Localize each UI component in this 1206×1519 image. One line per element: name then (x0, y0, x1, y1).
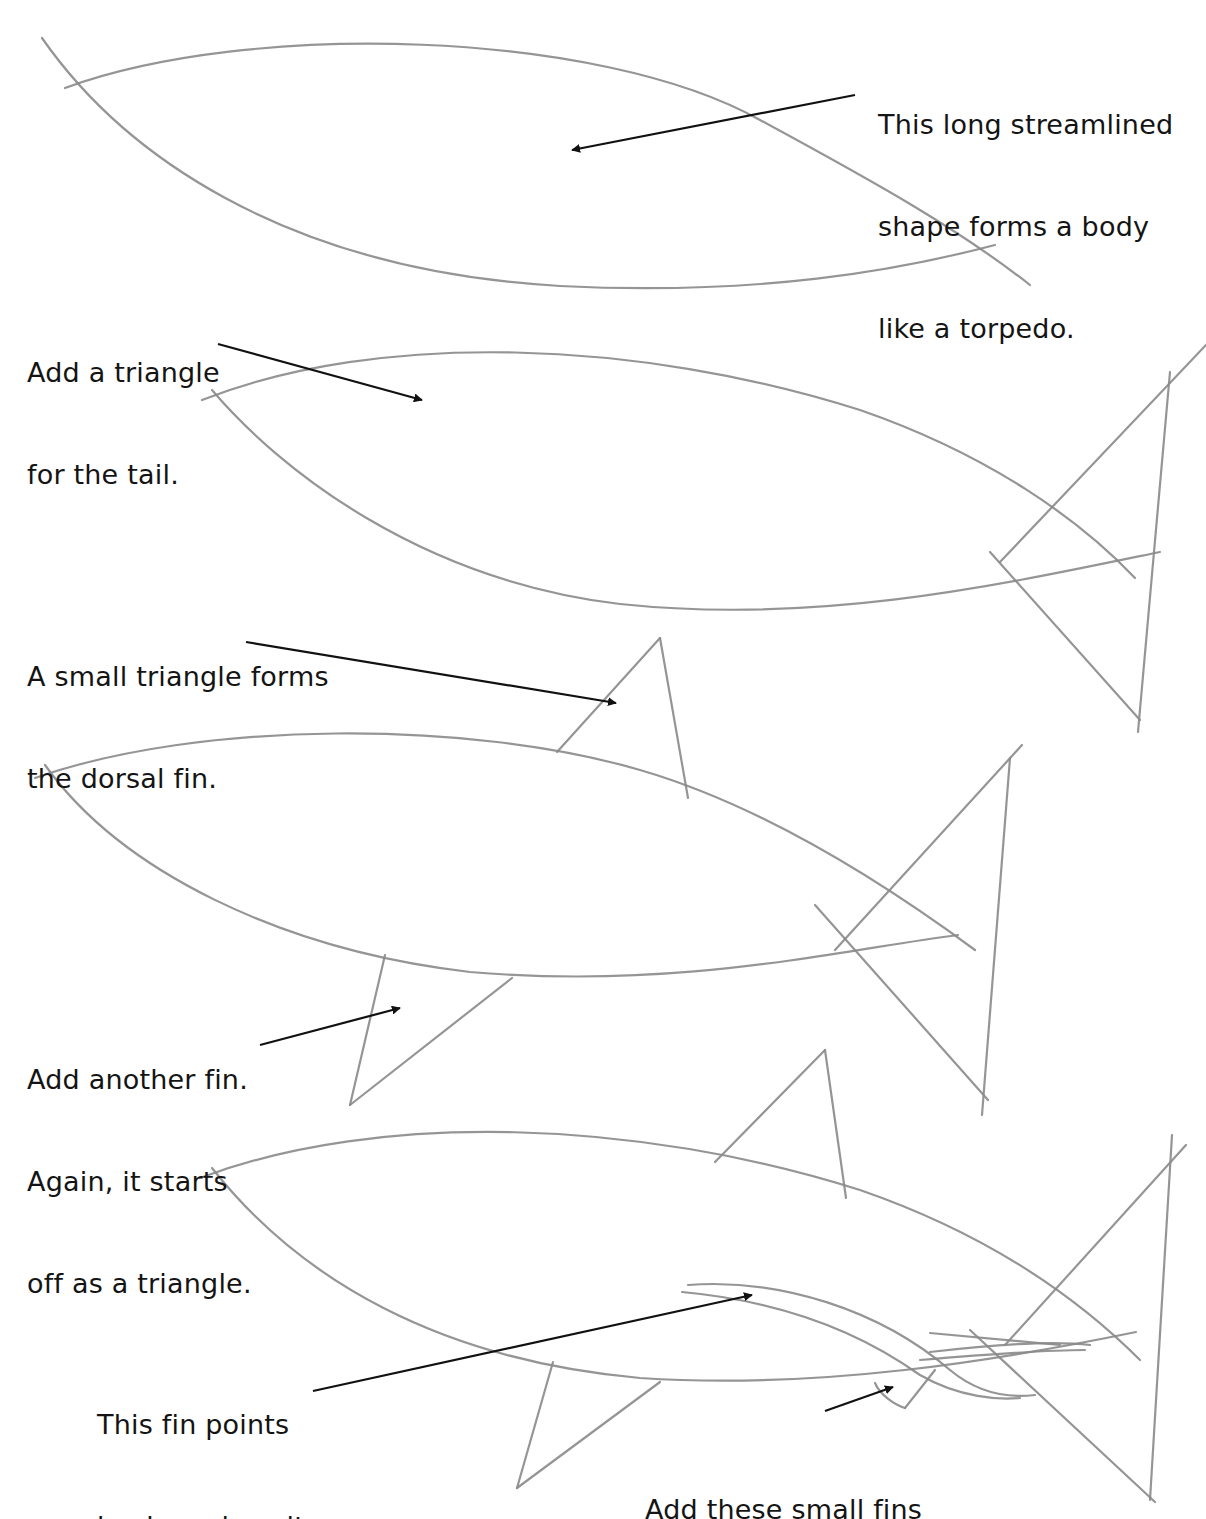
annotation-line: for the tail. (27, 458, 220, 492)
annotation-line: Add a triangle (27, 356, 220, 390)
annotation-pectoral-fin: This fin points backward, so it looks lo… (97, 1340, 305, 1519)
step-3-lower-fin (350, 955, 512, 1105)
step-4-arrow (260, 1008, 400, 1045)
annotation-body: This long streamlined shape forms a body… (878, 40, 1173, 380)
step-5-pectoral-arrow (313, 1295, 752, 1391)
annotation-line: Add another fin. (27, 1063, 252, 1097)
annotation-tail: Add a triangle for the tail. (27, 288, 220, 526)
annotation-line: like a torpedo. (878, 312, 1173, 346)
annotation-line: This fin points (97, 1408, 305, 1442)
step-5-lower-fin (517, 1362, 660, 1488)
annotation-line: A small triangle forms (27, 660, 329, 694)
step-2-arrow (218, 344, 422, 400)
step-3-tail-triangle (815, 745, 1022, 1115)
annotation-dorsal-fin: A small triangle forms the dorsal fin. (27, 592, 329, 830)
step-5-body-sketch (200, 1132, 1140, 1381)
step-2-body-sketch (202, 352, 1160, 610)
annotation-line: Again, it starts (27, 1165, 252, 1199)
annotation-line: shape forms a body (878, 210, 1173, 244)
step-2-tail-triangle (990, 345, 1206, 732)
step-5-dorsal-fin (715, 1050, 846, 1198)
annotation-another-fin: Add another fin. Again, it starts off as… (27, 995, 252, 1335)
annotation-line: This long streamlined (878, 108, 1173, 142)
annotation-line: off as a triangle. (27, 1267, 252, 1301)
annotation-small-fins: Add these small fins on the underside. (645, 1425, 922, 1519)
annotation-line: Add these small fins (645, 1493, 922, 1519)
step-5-small-fin (875, 1370, 935, 1408)
step-3-dorsal-fin (557, 638, 688, 798)
step-5-tail-triangle (930, 1135, 1186, 1502)
annotation-line: backward, so it (97, 1510, 305, 1519)
step-1-arrow (572, 95, 855, 150)
annotation-line: the dorsal fin. (27, 762, 329, 796)
step-5-small-fins-arrow (825, 1387, 893, 1411)
